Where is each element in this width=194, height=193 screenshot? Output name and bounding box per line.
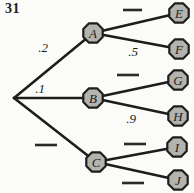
node-A-label: A xyxy=(88,26,97,41)
node-F: F xyxy=(169,39,188,58)
node-E-label: E xyxy=(174,6,183,21)
nodes: A B C E F G H xyxy=(83,3,188,189)
branch-C-I xyxy=(96,147,177,162)
node-E: E xyxy=(169,3,188,22)
node-G-label: G xyxy=(173,73,183,88)
node-F-label: F xyxy=(174,42,184,57)
branch-B-G xyxy=(93,80,178,98)
probability-labels: .2 .1 .5 .9 xyxy=(35,40,138,126)
probability-root-B: .1 xyxy=(35,81,45,96)
node-J: J xyxy=(168,170,187,189)
node-A: A xyxy=(83,23,102,42)
node-I: I xyxy=(167,137,186,156)
node-C: C xyxy=(86,152,105,171)
branch-A-E xyxy=(93,13,179,33)
node-H: H xyxy=(168,106,187,125)
branch-root-C xyxy=(14,98,96,162)
node-G: G xyxy=(168,70,187,89)
probability-A-F: .5 xyxy=(128,44,138,59)
node-C-label: C xyxy=(92,155,101,170)
node-I-label: I xyxy=(174,140,180,155)
probability-B-H: .9 xyxy=(126,111,136,126)
branch-C-J xyxy=(96,162,178,180)
tree-diagram: .2 .1 .5 .9 A B C E xyxy=(0,0,194,193)
probability-root-A: .2 xyxy=(38,40,48,55)
branch-root-A xyxy=(14,33,93,98)
node-B-label: B xyxy=(89,91,97,106)
probability-tree-figure: 31 .2 .1 .5 .9 xyxy=(0,0,194,193)
node-H-label: H xyxy=(172,109,183,124)
node-B: B xyxy=(83,88,102,107)
